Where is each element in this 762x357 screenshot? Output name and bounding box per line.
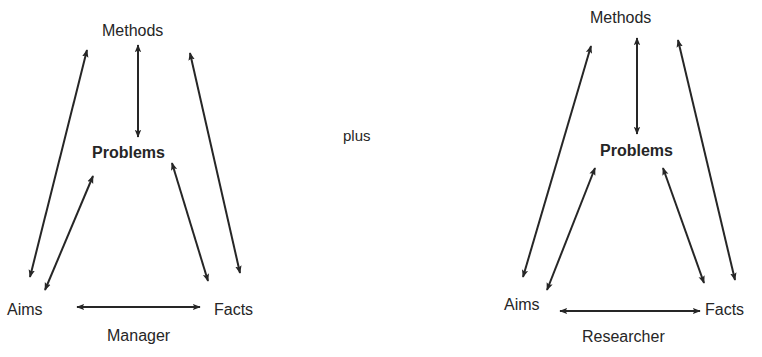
arrow-methods-aims: [523, 46, 591, 277]
node-aims: Aims: [504, 297, 540, 313]
node-problems: Problems: [92, 145, 165, 161]
node-methods: Methods: [590, 10, 651, 26]
arrow-problems-aims: [547, 168, 595, 290]
node-aims: Aims: [7, 302, 43, 318]
arrows-layer: [0, 0, 762, 357]
connector-label: plus: [343, 128, 371, 143]
arrow-problems-aims: [45, 176, 93, 290]
node-facts: Facts: [214, 302, 253, 318]
arrow-methods-aims: [30, 50, 87, 277]
node-facts: Facts: [705, 302, 744, 318]
diagram-caption: Manager: [107, 328, 170, 344]
node-methods: Methods: [102, 23, 163, 39]
arrow-problems-facts: [663, 168, 704, 283]
node-problems: Problems: [600, 143, 673, 159]
diagram-caption: Researcher: [582, 329, 665, 345]
arrow-methods-facts: [190, 53, 240, 273]
arrow-methods-facts: [678, 40, 735, 280]
arrow-problems-facts: [172, 163, 208, 281]
